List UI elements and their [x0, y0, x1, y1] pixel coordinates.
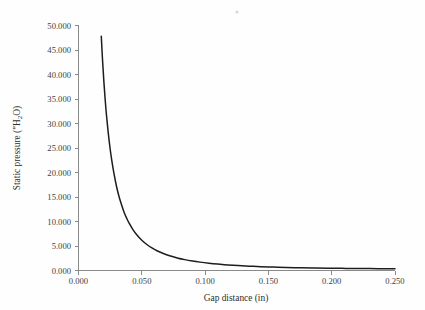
x-tick-label: 0.000 — [69, 276, 88, 286]
y-tick-label: 0.000 — [52, 266, 71, 276]
y-tick-label: 30.000 — [47, 119, 71, 129]
scan-artifact-speck — [235, 10, 238, 13]
chart-figure: 0.000 5.000 10.000 15.000 20.000 25.000 … — [0, 0, 425, 310]
y-tick-label: 50.000 — [47, 21, 71, 31]
y-tick-label: 40.000 — [47, 70, 71, 80]
y-tick-label: 15.000 — [47, 192, 71, 202]
y-tick-label: 5.000 — [52, 241, 71, 251]
y-tick-label: 25.000 — [47, 143, 71, 153]
y-tick-label: 35.000 — [47, 94, 71, 104]
static-pressure-line-chart: 0.000 5.000 10.000 15.000 20.000 25.000 … — [0, 0, 425, 310]
y-tick-label: 10.000 — [47, 217, 71, 227]
x-tick-label: 0.150 — [259, 276, 278, 286]
x-tick-label: 0.100 — [195, 276, 214, 286]
x-tick-label: 0.050 — [132, 276, 151, 286]
y-tick-label: 20.000 — [47, 168, 71, 178]
x-tick-label: 0.250 — [385, 276, 404, 286]
x-tick-label: 0.200 — [322, 276, 341, 286]
y-axis-title-suffix: O) — [12, 106, 23, 116]
y-tick-label: 45.000 — [47, 45, 71, 55]
y-axis-title-prefix: Static pressure ("H — [12, 119, 23, 190]
x-axis-title: Gap distance (in) — [204, 293, 269, 304]
